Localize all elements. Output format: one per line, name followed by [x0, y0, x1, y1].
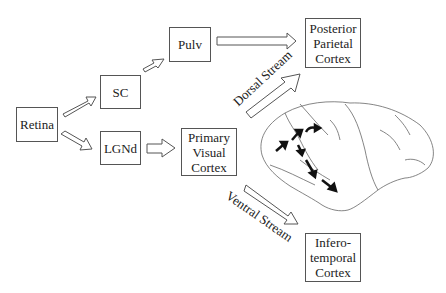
node-sc: SC	[100, 75, 141, 109]
node-lgnd-label: LGNd	[104, 141, 137, 156]
node-ppc-label: Posterior Parietal Cortex	[310, 21, 357, 66]
node-primary-visual-cortex: Primary Visual Cortex	[181, 128, 237, 176]
node-pulv: Pulv	[169, 27, 211, 62]
node-posterior-parietal-cortex: Posterior Parietal Cortex	[305, 18, 361, 68]
arrow-sc-pulv	[143, 59, 164, 72]
arrow-retina-sc	[63, 97, 96, 117]
brain-illustration	[261, 102, 433, 211]
arrow-lgnd-v1	[147, 139, 175, 157]
node-sc-label: SC	[113, 85, 129, 100]
node-it-label: Infero- temporal Cortex	[310, 235, 356, 280]
node-retina-label: Retina	[20, 117, 54, 132]
node-lgnd: LGNd	[100, 131, 141, 165]
arrow-retina-lgnd	[61, 131, 92, 150]
node-pulv-label: Pulv	[178, 37, 202, 52]
node-inferotemporal-cortex: Infero- temporal Cortex	[305, 233, 361, 282]
node-v1-label: Primary Visual Cortex	[188, 130, 230, 175]
node-retina: Retina	[16, 107, 58, 142]
